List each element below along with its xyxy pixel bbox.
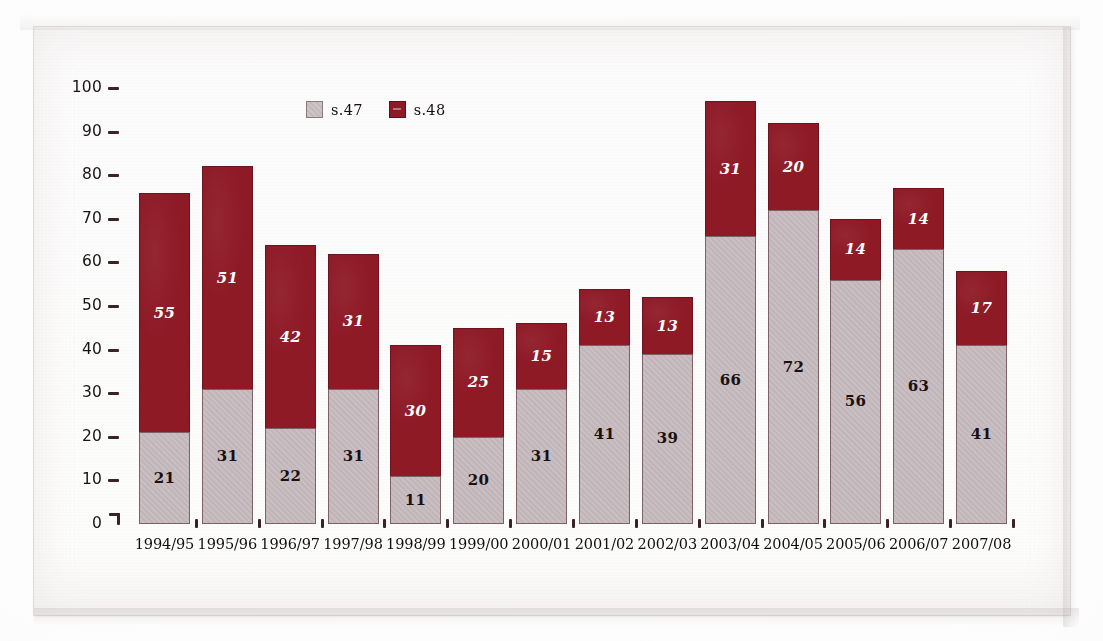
- bar-value-label: 20: [468, 473, 489, 488]
- bar-segment-s48[interactable]: 31: [705, 101, 756, 236]
- x-axis-tick: [886, 519, 889, 528]
- x-axis-tick: [258, 519, 261, 528]
- bar-segment-s48[interactable]: 42: [265, 245, 316, 428]
- x-axis-tick: [195, 519, 198, 528]
- x-axis-tick: [1012, 519, 1015, 528]
- stacked-bar[interactable]: 7220: [768, 123, 819, 524]
- bar-value-label: 31: [720, 162, 741, 177]
- bar-segment-s47[interactable]: 41: [579, 345, 630, 524]
- bar-segment-s48[interactable]: 30: [390, 345, 441, 476]
- bar-segment-s48[interactable]: 15: [516, 323, 567, 388]
- bar-value-label: 31: [217, 449, 238, 464]
- bar-value-label: 13: [594, 310, 615, 325]
- bar-value-label: 56: [845, 394, 866, 409]
- stacked-bar[interactable]: 6314: [893, 188, 944, 524]
- y-axis-label: 90: [60, 122, 102, 140]
- legend-label-s48: s.48: [414, 102, 446, 118]
- stacked-bar[interactable]: 3913: [642, 297, 693, 524]
- x-axis-tick: [572, 519, 575, 528]
- bar-value-label: 42: [280, 330, 301, 345]
- bar-segment-s48[interactable]: 13: [579, 289, 630, 346]
- y-axis-label: 60: [60, 252, 102, 270]
- bar-segment-s47[interactable]: 56: [830, 280, 881, 524]
- bar-value-label: 31: [343, 314, 364, 329]
- bar-value-label: 14: [908, 212, 929, 227]
- bar-value-label: 39: [657, 431, 678, 446]
- bar-segment-s47[interactable]: 20: [453, 437, 504, 524]
- x-axis-tick: [383, 519, 386, 528]
- stacked-bar[interactable]: 3115: [516, 323, 567, 524]
- bar-value-label: 25: [468, 375, 489, 390]
- x-axis-tick: [761, 519, 764, 528]
- bar-segment-s47[interactable]: 31: [202, 389, 253, 524]
- bar-segment-s48[interactable]: 31: [328, 254, 379, 389]
- bar-segment-s48[interactable]: 20: [768, 123, 819, 210]
- y-axis-label: 20: [60, 427, 102, 445]
- light-gray-swatch-icon: [306, 101, 323, 118]
- bar-segment-s47[interactable]: 11: [390, 476, 441, 524]
- y-axis-tick: [108, 305, 119, 308]
- bar-segment-s48[interactable]: 14: [830, 219, 881, 280]
- y-axis-label: 10: [60, 470, 102, 488]
- legend-item-s48[interactable]: s.48: [389, 101, 446, 118]
- stacked-bar[interactable]: 2155: [139, 193, 190, 524]
- y-axis-tick: [108, 131, 119, 134]
- bar-value-label: 15: [531, 349, 552, 364]
- bar-segment-s47[interactable]: 31: [516, 389, 567, 524]
- y-axis-label: 40: [60, 340, 102, 358]
- stacked-bar[interactable]: 3131: [328, 254, 379, 524]
- bar-value-label: 41: [971, 427, 992, 442]
- stacked-bar[interactable]: 4117: [956, 271, 1007, 524]
- legend-item-s47[interactable]: s.47: [306, 101, 363, 118]
- y-axis-tick: [108, 436, 119, 439]
- bar-segment-s47[interactable]: 21: [139, 432, 190, 524]
- y-axis-label: 100: [60, 78, 102, 96]
- stacked-bar[interactable]: 3151: [202, 166, 253, 524]
- bar-value-label: 72: [783, 360, 804, 375]
- y-axis-label: 80: [60, 165, 102, 183]
- y-axis-tick: [108, 261, 119, 264]
- bar-value-label: 11: [405, 493, 426, 508]
- x-axis-tick: [321, 519, 324, 528]
- y-axis-label: 50: [60, 296, 102, 314]
- axis-origin-mark: [109, 513, 120, 525]
- bar-segment-s48[interactable]: 51: [202, 166, 253, 388]
- y-axis-tick: [108, 392, 119, 395]
- x-axis-tick: [823, 519, 826, 528]
- bar-segment-s48[interactable]: 25: [453, 328, 504, 437]
- stacked-bar[interactable]: 5614: [830, 219, 881, 524]
- bar-segment-s47[interactable]: 39: [642, 354, 693, 524]
- x-axis-tick: [635, 519, 638, 528]
- bar-value-label: 55: [154, 306, 175, 321]
- y-axis-tick: [108, 218, 119, 221]
- y-axis-tick: [108, 349, 119, 352]
- bar-segment-s47[interactable]: 31: [328, 389, 379, 524]
- stacked-bar[interactable]: 2242: [265, 245, 316, 524]
- stacked-bar[interactable]: 2025: [453, 328, 504, 524]
- stacked-bar[interactable]: 6631: [705, 101, 756, 524]
- bar-value-label: 31: [343, 449, 364, 464]
- bar-segment-s47[interactable]: 72: [768, 210, 819, 524]
- bar-segment-s48[interactable]: 55: [139, 193, 190, 433]
- y-axis-tick: [108, 479, 119, 482]
- bar-segment-s47[interactable]: 66: [705, 236, 756, 524]
- bar-value-label: 14: [845, 242, 866, 257]
- bar-value-label: 63: [908, 379, 929, 394]
- stacked-bar[interactable]: 4113: [579, 289, 630, 524]
- bar-value-label: 41: [594, 427, 615, 442]
- bar-segment-s48[interactable]: 13: [642, 297, 693, 354]
- y-axis-tick: [108, 87, 119, 90]
- bar-segment-s47[interactable]: 41: [956, 345, 1007, 524]
- chart-legend: s.47 s.48: [306, 101, 445, 118]
- x-axis-tick: [949, 519, 952, 528]
- bar-value-label: 31: [531, 449, 552, 464]
- bar-segment-s48[interactable]: 14: [893, 188, 944, 249]
- stacked-bar-chart: 0102030405060708090100 s.47 s.48 2155315…: [0, 0, 1103, 641]
- y-axis-label: 0: [60, 514, 102, 532]
- legend-label-s47: s.47: [331, 102, 363, 118]
- bar-segment-s47[interactable]: 22: [265, 428, 316, 524]
- bar-segment-s47[interactable]: 63: [893, 249, 944, 524]
- stacked-bar[interactable]: 1130: [390, 345, 441, 524]
- bar-value-label: 22: [280, 469, 301, 484]
- bar-segment-s48[interactable]: 17: [956, 271, 1007, 345]
